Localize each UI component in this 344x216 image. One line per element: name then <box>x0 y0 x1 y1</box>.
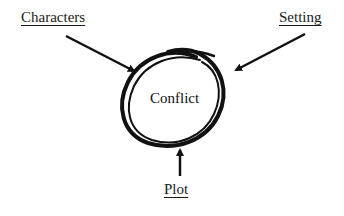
node-plot: Plot <box>164 181 188 198</box>
node-setting: Setting <box>279 9 322 26</box>
arrow-setting-to-conflict <box>236 34 305 70</box>
node-characters: Characters <box>21 9 85 26</box>
conflict-diagram: Characters Setting Plot Conflict <box>0 0 344 216</box>
center-conflict: Conflict <box>150 90 199 107</box>
arrow-characters-to-conflict <box>66 36 134 71</box>
